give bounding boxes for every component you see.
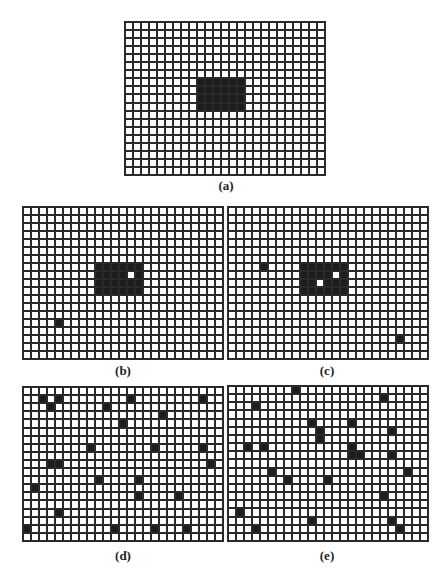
grid-cell <box>190 95 198 103</box>
grid-cell <box>56 224 64 232</box>
grid-cell <box>341 534 349 542</box>
grid-cell <box>142 71 150 79</box>
grid-cell <box>253 534 261 542</box>
grid-cell <box>88 328 96 336</box>
grid-cell <box>216 280 224 288</box>
grid-cell <box>373 280 381 288</box>
grid-cell <box>208 272 216 280</box>
grid-cell <box>80 352 88 360</box>
grid-cell <box>120 461 128 469</box>
grid-cell <box>120 352 128 360</box>
grid-cell <box>262 39 270 47</box>
grid-cell <box>24 388 32 396</box>
grid-cell <box>214 23 222 31</box>
grid-cell <box>112 224 120 232</box>
grid-cell <box>192 272 200 280</box>
grid-cell <box>150 23 158 31</box>
grid-cell <box>152 304 160 312</box>
grid-cell <box>144 296 152 304</box>
grid-panel-a <box>124 21 326 176</box>
grid-cell <box>96 304 104 312</box>
grid-cell <box>214 63 222 71</box>
grid-cell <box>112 320 120 328</box>
grid-cell <box>246 55 254 63</box>
dark-cell <box>230 95 238 103</box>
grid-cell <box>200 232 208 240</box>
grid-cell <box>421 256 429 264</box>
grid-cell <box>405 304 413 312</box>
grid-cell <box>184 501 192 509</box>
grid-cell <box>365 501 373 509</box>
grid-cell <box>126 23 134 31</box>
grid-cell <box>214 39 222 47</box>
grid-cell <box>302 112 310 120</box>
grid-cell <box>152 272 160 280</box>
grid-cell <box>341 485 349 493</box>
grid-cell <box>182 120 190 128</box>
grid-cell <box>341 501 349 509</box>
grid-cell <box>40 288 48 296</box>
dark-cell <box>293 387 301 395</box>
grid-cell <box>269 288 277 296</box>
grid-cell <box>48 280 56 288</box>
grid-cell <box>182 168 190 176</box>
grid-cell <box>389 296 397 304</box>
grid-cell <box>184 396 192 404</box>
grid-panel-d <box>22 386 224 542</box>
grid-cell <box>48 232 56 240</box>
grid-cell <box>176 344 184 352</box>
grid-cell <box>230 120 238 128</box>
grid-cell <box>310 120 318 128</box>
grid-cell <box>174 47 182 55</box>
grid-cell <box>349 256 357 264</box>
grid-cell <box>254 168 262 176</box>
grid-cell <box>80 518 88 526</box>
grid-cell <box>48 453 56 461</box>
grid-cell <box>253 336 261 344</box>
dark-cell <box>104 280 112 288</box>
grid-cell <box>166 168 174 176</box>
grid-cell <box>128 501 136 509</box>
grid-cell <box>341 328 349 336</box>
grid-cell <box>246 152 254 160</box>
grid-cell <box>200 288 208 296</box>
grid-cell <box>166 23 174 31</box>
grid-cell <box>176 396 184 404</box>
grid-cell <box>32 296 40 304</box>
grid-cell <box>357 411 365 419</box>
grid-cell <box>206 39 214 47</box>
grid-cell <box>206 160 214 168</box>
grid-cell <box>405 395 413 403</box>
grid-cell <box>357 248 365 256</box>
grid-cell <box>176 501 184 509</box>
grid-cell <box>270 47 278 55</box>
grid-cell <box>192 453 200 461</box>
grid-cell <box>168 510 176 518</box>
grid-cell <box>160 477 168 485</box>
grid-cell <box>184 404 192 412</box>
grid-cell <box>144 224 152 232</box>
grid-cell <box>32 420 40 428</box>
grid-cell <box>357 518 365 526</box>
grid-cell <box>166 120 174 128</box>
grid-cell <box>253 477 261 485</box>
grid-cell <box>72 461 80 469</box>
grid-cell <box>56 304 64 312</box>
grid-cell <box>310 63 318 71</box>
grid-cell <box>40 477 48 485</box>
grid-cell <box>64 328 72 336</box>
grid-cell <box>174 136 182 144</box>
grid-cell <box>48 216 56 224</box>
grid-cell <box>104 485 112 493</box>
grid-cell <box>160 445 168 453</box>
grid-cell <box>405 208 413 216</box>
grid-cell <box>381 216 389 224</box>
grid-cell <box>310 136 318 144</box>
grid-cell <box>333 469 341 477</box>
grid-cell <box>285 411 293 419</box>
grid-cell <box>270 152 278 160</box>
grid-cell <box>389 485 397 493</box>
grid-cell <box>317 232 325 240</box>
grid-cell <box>365 436 373 444</box>
grid-cell <box>222 71 230 79</box>
